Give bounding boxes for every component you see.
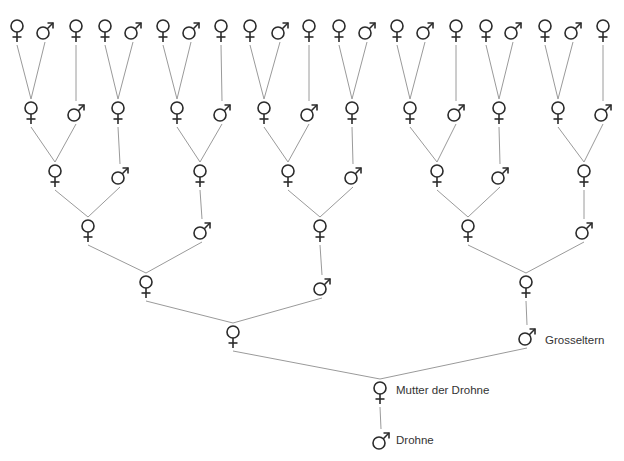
ancestry-line — [88, 187, 120, 217]
ancestry-line — [486, 45, 499, 99]
male-symbol-icon — [125, 23, 141, 39]
male-symbol-icon — [314, 279, 330, 295]
female-symbol-icon — [282, 165, 294, 187]
ancestry-line — [468, 245, 526, 273]
ancestry-line — [146, 301, 233, 323]
female-symbol-icon — [404, 102, 416, 124]
ancestry-line — [320, 245, 322, 275]
male-symbol-icon — [345, 168, 361, 184]
ancestry-line — [380, 407, 381, 429]
male-symbol-icon — [492, 168, 508, 184]
ancestry-line — [118, 127, 120, 164]
ancestry-line — [339, 45, 352, 99]
female-symbol-icon — [140, 276, 152, 298]
genealogy-diagram — [0, 0, 624, 461]
ancestry-line — [468, 187, 500, 217]
male-symbol-icon — [37, 23, 53, 39]
ancestry-line — [320, 187, 353, 217]
female-symbol-icon — [520, 276, 532, 298]
female-symbol-icon — [314, 220, 326, 242]
ancestry-line — [17, 45, 31, 99]
ancestry-line — [437, 190, 468, 217]
male-symbol-icon — [448, 105, 464, 121]
male-symbol-icon — [301, 105, 317, 121]
male-symbol-icon — [272, 23, 288, 39]
ancestry-line — [558, 127, 584, 162]
ancestry-line — [200, 124, 222, 162]
female-symbol-icon — [493, 102, 505, 124]
ancestry-line — [437, 124, 456, 162]
female-symbol-icon — [391, 20, 403, 42]
ancestor-symbols — [11, 20, 611, 449]
male-symbol-icon — [373, 433, 389, 449]
male-symbol-icon — [194, 223, 210, 239]
ancestry-line — [499, 42, 513, 99]
ancestry-line — [177, 42, 191, 99]
female-symbol-icon — [25, 102, 37, 124]
ancestry-line — [250, 45, 264, 99]
ancestry-line — [118, 42, 133, 99]
female-symbol-icon — [157, 20, 169, 42]
ancestry-line — [146, 242, 202, 273]
female-symbol-icon — [258, 102, 270, 124]
female-symbol-icon — [99, 20, 111, 42]
female-symbol-icon — [346, 102, 358, 124]
ancestry-line — [410, 127, 437, 162]
ancestry-line — [88, 245, 146, 273]
male-symbol-icon — [183, 23, 199, 39]
male-symbol-icon — [576, 223, 592, 239]
female-symbol-icon — [244, 20, 256, 42]
male-symbol-icon — [359, 23, 375, 39]
female-symbol-icon — [303, 20, 315, 42]
male-symbol-icon — [595, 105, 611, 121]
label-grandparents: Grosseltern — [545, 334, 604, 346]
ancestry-line — [526, 242, 584, 273]
ancestry-line — [264, 42, 280, 99]
male-symbol-icon — [214, 105, 230, 121]
male-symbol-icon — [519, 329, 535, 345]
female-symbol-icon — [462, 220, 474, 242]
ancestry-line — [380, 348, 527, 379]
ancestry-line — [221, 45, 222, 101]
ancestry-line — [200, 190, 202, 219]
female-symbol-icon — [70, 20, 82, 42]
ancestry-line — [352, 127, 353, 164]
male-symbol-icon — [417, 23, 433, 39]
ancestry-line — [233, 351, 380, 379]
ancestry-line — [163, 45, 177, 99]
female-symbol-icon — [539, 20, 551, 42]
female-symbol-icon — [333, 20, 345, 42]
female-symbol-icon — [431, 165, 443, 187]
ancestry-line — [177, 127, 200, 162]
ancestry-line — [352, 42, 367, 99]
ancestry-line — [264, 127, 288, 162]
female-symbol-icon — [227, 326, 239, 348]
label-drone: Drohne — [396, 434, 434, 446]
ancestry-line — [31, 42, 45, 99]
male-symbol-icon — [68, 105, 84, 121]
female-symbol-icon — [11, 20, 23, 42]
male-symbol-icon — [112, 168, 128, 184]
ancestry-line — [526, 301, 527, 325]
ancestry-line — [410, 42, 425, 99]
label-mother-of-drone: Mutter der Drohne — [396, 384, 489, 396]
female-symbol-icon — [49, 165, 61, 187]
ancestry-line — [545, 45, 558, 99]
female-symbol-icon — [450, 20, 462, 42]
female-symbol-icon — [194, 165, 206, 187]
female-symbol-icon — [552, 102, 564, 124]
ancestry-line — [233, 298, 322, 323]
male-symbol-icon — [505, 23, 521, 39]
ancestry-line — [558, 42, 573, 99]
ancestry-line — [288, 190, 320, 217]
male-symbol-icon — [565, 23, 581, 39]
female-symbol-icon — [480, 20, 492, 42]
ancestry-line — [499, 127, 500, 164]
ancestry-line — [55, 124, 76, 162]
ancestry-line — [397, 45, 410, 99]
ancestry-line — [584, 124, 603, 162]
ancestry-line — [55, 190, 88, 217]
ancestry-line — [288, 124, 309, 162]
female-symbol-icon — [597, 20, 609, 42]
female-symbol-icon — [374, 382, 386, 404]
